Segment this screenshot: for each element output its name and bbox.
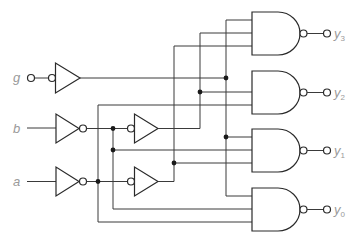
output-label-y2: y2 xyxy=(333,85,346,102)
input-label-a: a xyxy=(13,174,20,189)
output-label-y3: y3 xyxy=(333,26,346,43)
output-y0-terminal-icon xyxy=(324,206,331,213)
buffer-b-input-bubble-icon xyxy=(128,125,135,132)
buffer-a-input-bubble-icon xyxy=(128,178,135,185)
output-y2-terminal-icon xyxy=(324,89,331,96)
nand-gate-y2: y2 xyxy=(252,71,346,114)
output-label-y1: y1 xyxy=(333,143,346,160)
not-b-gate-icon xyxy=(56,114,79,143)
not-b-bubble-icon xyxy=(80,125,87,132)
buffer-a-gate-icon xyxy=(135,167,159,196)
nand-y1-gate-icon xyxy=(252,129,300,172)
input-g-bubble-icon xyxy=(28,75,35,82)
input-label-b: b xyxy=(13,121,20,136)
buffer-b-gate-icon xyxy=(135,114,159,143)
nand-y3-gate-icon xyxy=(252,12,300,55)
input-label-g: g xyxy=(13,70,21,85)
not-a-bubble-icon xyxy=(80,178,87,185)
nand-gate-y3: y3 xyxy=(252,12,346,55)
not-a-gate-icon xyxy=(56,167,79,196)
decoder-circuit-diagram: g b a xyxy=(0,0,357,245)
output-label-y0: y0 xyxy=(333,202,346,219)
b-bar-bus xyxy=(113,129,252,210)
input-g-path xyxy=(28,63,227,93)
output-y3-terminal-icon xyxy=(324,30,331,37)
output-y1-terminal-icon xyxy=(324,147,331,154)
buffer-g-input-bubble-icon xyxy=(49,75,56,82)
nand-y0-gate-icon xyxy=(252,188,300,231)
buffer-g-gate-icon xyxy=(56,63,81,93)
nand-y2-gate-icon xyxy=(252,71,300,114)
nand-gate-y0: y0 xyxy=(252,188,346,231)
nand-gate-y1: y1 xyxy=(252,129,346,172)
